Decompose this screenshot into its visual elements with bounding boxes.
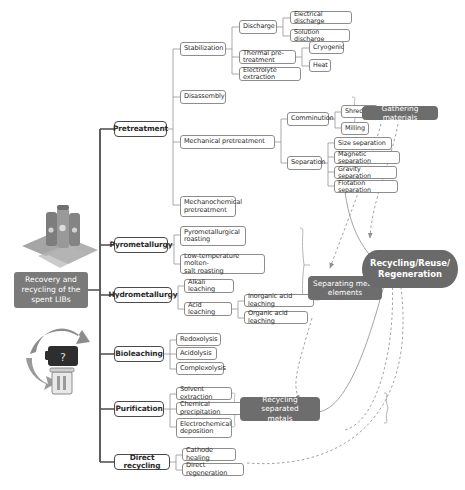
node-complexolysis[interactable]: Complexolysis <box>176 362 224 375</box>
branch-label: Direct recycling <box>118 454 166 470</box>
svg-text:?: ? <box>60 351 66 364</box>
branch-label: Bioleaching <box>115 350 162 358</box>
node-chemical-precipitation[interactable]: Chemical precipitation <box>176 402 244 415</box>
node-inorganic-acid-leaching[interactable]: Inorganic acid leaching <box>244 294 314 307</box>
node-flotation-separation[interactable]: Flotation separation <box>334 180 398 193</box>
branch-bioleaching[interactable]: Bioleaching <box>114 346 164 362</box>
node-cathode-healing[interactable]: Cathode healing <box>182 448 236 461</box>
branch-pyrometallurgy[interactable]: Pyrometallurgy <box>114 237 168 253</box>
node-milling[interactable]: Milling <box>341 122 369 135</box>
node-alkali-leaching[interactable]: Alkali leaching <box>184 279 234 293</box>
node-organic-acid-leaching[interactable]: Organic acid leaching <box>244 311 308 324</box>
branch-label: Pyrometallurgy <box>110 241 173 249</box>
node-redoxolysis[interactable]: Redoxolysis <box>176 333 221 346</box>
branch-purification[interactable]: Purification <box>114 401 164 417</box>
node-separation[interactable]: Separation <box>287 156 322 170</box>
node-heat[interactable]: Heat <box>309 59 331 72</box>
node-disassembly[interactable]: Disassembly <box>180 90 226 104</box>
node-pyrometallurgical-roasting[interactable]: Pyrometallurgical roasting <box>180 226 246 246</box>
node-size-separation[interactable]: Size separation <box>334 137 392 150</box>
node-mechanochemical-pretreatment[interactable]: Mechanochemical pretreatment <box>180 196 236 217</box>
root-node[interactable]: Recovery and recycling of the spent LIBs <box>14 272 88 308</box>
outcome-gathering-materials[interactable]: Gathering materials <box>362 106 438 120</box>
node-discharge[interactable]: Discharge <box>239 20 277 34</box>
branch-direct-recycling[interactable]: Direct recycling <box>114 454 170 470</box>
node-mechanical-pretreatment[interactable]: Mechanical pretreatment <box>180 135 275 149</box>
node-electrical-discharge[interactable]: Electrical discharge <box>290 11 352 24</box>
node-acidolysis[interactable]: Acidolysis <box>176 347 217 360</box>
node-cryogenic[interactable]: Cryogenic <box>309 41 344 54</box>
branch-label: Hydrometallurgy <box>109 291 178 299</box>
node-stabilization[interactable]: Stabilization <box>180 42 226 56</box>
branch-label: Pretreatment <box>113 125 168 133</box>
root-label: Recovery and recycling of the spent LIBs <box>22 275 81 306</box>
node-electrochemical-deposition[interactable]: Electrochemical deposition <box>176 418 232 438</box>
battery-cells-image <box>16 198 104 272</box>
node-direct-regeneration[interactable]: Direct regeneration <box>182 463 244 476</box>
node-electrolyte-extraction[interactable]: Electrolyte extraction <box>239 67 301 81</box>
node-solvent-extraction[interactable]: Solvent extraction <box>176 387 232 400</box>
branch-label: Purification <box>115 405 162 413</box>
node-acid-leaching[interactable]: Acid leaching <box>184 302 232 316</box>
node-gravity-separation[interactable]: Gravity separation <box>334 166 397 179</box>
node-thermal-pre-treatment[interactable]: Thermal pre-treatment <box>239 50 296 64</box>
branch-pretreatment[interactable]: Pretreatment <box>114 121 167 137</box>
branch-hydrometallurgy[interactable]: Hydrometallurgy <box>114 287 172 303</box>
node-magnetic-separation[interactable]: Magnetic separation <box>334 151 400 164</box>
outcome-recycling-reuse-regeneration[interactable]: Recycling/Reuse/ Regeneration <box>362 250 458 288</box>
node-comminution[interactable]: Comminution <box>287 112 329 126</box>
mindmap-canvas: Recovery and recycling of the spent LIBs <box>0 0 465 490</box>
node-low-temperature-molten-salt-roasting[interactable]: Low-temperature molten- salt roasting <box>180 254 265 274</box>
battery-recycling-image: ? <box>22 322 100 398</box>
outcome-recycling-separated-metals[interactable]: Recycling separated metals <box>240 397 320 421</box>
